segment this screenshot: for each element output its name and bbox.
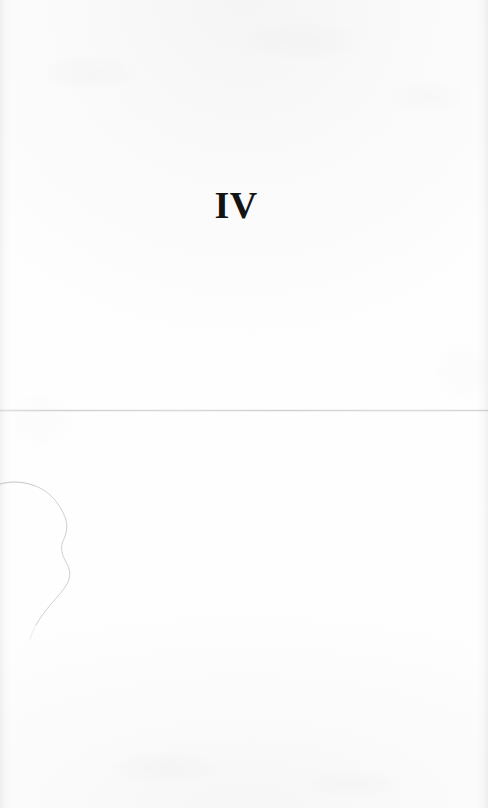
horizontal-scan-seam <box>0 409 488 412</box>
section-numeral-block: IV <box>0 186 472 224</box>
page-crease-icon <box>0 455 120 655</box>
paper-background <box>0 0 488 808</box>
paper-grain-texture <box>0 0 488 808</box>
section-numeral: IV <box>214 186 257 224</box>
scanned-page: IV <box>0 0 488 808</box>
page-crease-curve <box>0 455 120 655</box>
